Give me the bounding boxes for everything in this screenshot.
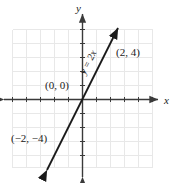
origin-point-label: (0, 0) <box>45 80 69 91</box>
y-axis-label: y <box>76 3 81 14</box>
point-label-2-4: (2, 4) <box>116 47 140 58</box>
coordinate-plane-figure: (0, 0) (2, 4) (−2, −4) x y y = 2x <box>0 0 177 183</box>
point-label-neg2-neg4: (−2, −4) <box>11 133 47 144</box>
graph-canvas <box>0 0 177 183</box>
x-axis-label: x <box>164 95 169 106</box>
